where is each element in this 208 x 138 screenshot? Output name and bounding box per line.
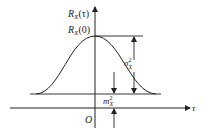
variance-label: σ2X bbox=[124, 57, 132, 70]
origin-label: O bbox=[85, 114, 92, 125]
tau-label: τ bbox=[192, 103, 196, 113]
autocorrelation-curve bbox=[36, 36, 156, 94]
mean-square-label: m2X bbox=[103, 95, 114, 107]
y-axis-label: RX(τ) bbox=[67, 8, 89, 21]
peak-label: RX(0) bbox=[67, 24, 90, 37]
autocorrelation-diagram: RX(τ) RX(0) τ O σ2X m2X bbox=[0, 0, 208, 138]
diagram-canvas: RX(τ) RX(0) τ O σ2X m2X bbox=[0, 0, 208, 138]
